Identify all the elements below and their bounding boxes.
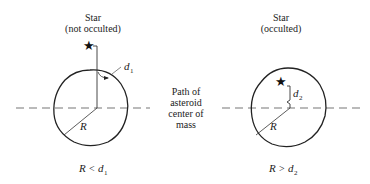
svg-text:2: 2 [294, 169, 298, 177]
path-label-line3: center of [168, 108, 204, 119]
left-star-icon: ★ [83, 38, 95, 53]
right-star-icon: ★ [275, 74, 287, 89]
svg-text:>: > [279, 163, 285, 174]
path-label-line2: asteroid [170, 97, 202, 108]
left-star-title: Star [85, 12, 102, 23]
left-radius-label: R [79, 120, 87, 132]
right-star-title: Star [273, 12, 290, 23]
svg-text:<: < [89, 163, 95, 174]
svg-text:1: 1 [104, 169, 108, 177]
occultation-diagram: ★ Star (not occulted) d 1 R ★ Star (occu… [0, 0, 370, 184]
svg-text:R: R [78, 162, 86, 174]
left-condition: R < d 1 [78, 162, 108, 177]
path-label-line4: mass [176, 119, 196, 130]
d2-subscript: 2 [299, 94, 303, 102]
right-radius-label: R [269, 120, 277, 132]
svg-text:R: R [268, 162, 276, 174]
left-star-subtitle: (not occulted) [65, 23, 121, 35]
d1-subscript: 1 [130, 67, 134, 75]
right-condition: R > d 2 [268, 162, 298, 177]
path-label-line1: Path of [172, 86, 201, 97]
right-asteroid [251, 68, 326, 146]
right-star-subtitle: (occulted) [261, 23, 302, 35]
left-asteroid [54, 46, 128, 145]
